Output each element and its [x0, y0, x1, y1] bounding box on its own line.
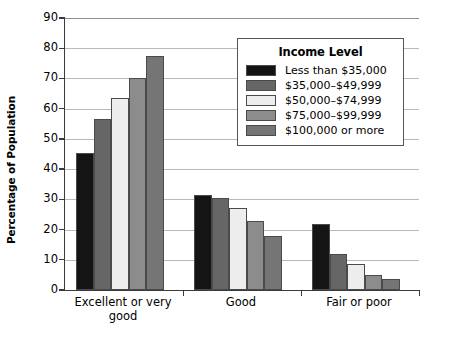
y-axis-tick-mark: [59, 138, 65, 139]
x-axis-tick-mark: [419, 290, 420, 296]
y-axis-tick-label: 70: [34, 73, 58, 85]
legend-item: $100,000 or more: [246, 123, 395, 138]
legend-swatch: [246, 65, 276, 76]
legend-label: $35,000–$49,999: [285, 80, 381, 91]
y-axis-tick-label: 90: [34, 12, 58, 24]
legend-item: $50,000–$74,999: [246, 93, 395, 108]
y-axis-tick-mark: [59, 78, 65, 79]
legend-item: Less than $35,000: [246, 63, 395, 78]
legend-label: $75,000–$99,999: [285, 110, 381, 121]
x-axis-category-label: Fair or poor: [300, 296, 418, 310]
x-axis-category-label: Good: [182, 296, 300, 310]
y-axis-tick-mark: [59, 289, 65, 290]
x-axis-category-label: Excellent or verygood: [64, 296, 182, 323]
y-axis-tick-label: 60: [34, 103, 58, 115]
x-axis-category-label-line: Excellent or very: [64, 296, 182, 310]
x-axis-category-label-line: good: [64, 310, 182, 324]
x-axis-category-label-line: Good: [182, 296, 300, 310]
y-axis-tick-label: 30: [34, 194, 58, 206]
y-axis-tick-label: 10: [34, 254, 58, 266]
legend-item: $75,000–$99,999: [246, 108, 395, 123]
legend-swatch: [246, 110, 276, 121]
legend-label: $50,000–$74,999: [285, 95, 381, 106]
legend-swatch: [246, 95, 276, 106]
legend-title: Income Level: [246, 45, 395, 59]
legend: Income Level Less than $35,000$35,000–$4…: [237, 38, 404, 146]
y-axis-tick-mark: [59, 229, 65, 230]
legend-label: Less than $35,000: [285, 65, 387, 76]
y-axis-tick-label: 50: [34, 133, 58, 145]
legend-swatch: [246, 80, 276, 91]
legend-item: $35,000–$49,999: [246, 78, 395, 93]
legend-rows: Less than $35,000$35,000–$49,999$50,000–…: [246, 63, 395, 138]
y-axis-tick-mark: [59, 17, 65, 18]
y-axis-tick-label: 20: [34, 224, 58, 236]
y-axis-tick-mark: [59, 48, 65, 49]
legend-label: $100,000 or more: [285, 125, 384, 136]
bar-chart: Percentage of Population 908070605040302…: [0, 0, 449, 340]
y-axis-tick-mark: [59, 168, 65, 169]
y-axis-tick-mark: [59, 108, 65, 109]
y-axis-tick-mark: [59, 199, 65, 200]
y-axis-title: Percentage of Population: [0, 0, 22, 340]
y-axis-tick-label: 40: [34, 163, 58, 175]
y-axis-tick-label: 80: [34, 42, 58, 54]
x-axis-category-label-line: Fair or poor: [300, 296, 418, 310]
legend-swatch: [246, 125, 276, 136]
y-axis-tick-mark: [59, 259, 65, 260]
y-axis-tick-label: 0: [34, 284, 58, 296]
y-axis-tick-labels: 9080706050403020100: [30, 18, 58, 290]
